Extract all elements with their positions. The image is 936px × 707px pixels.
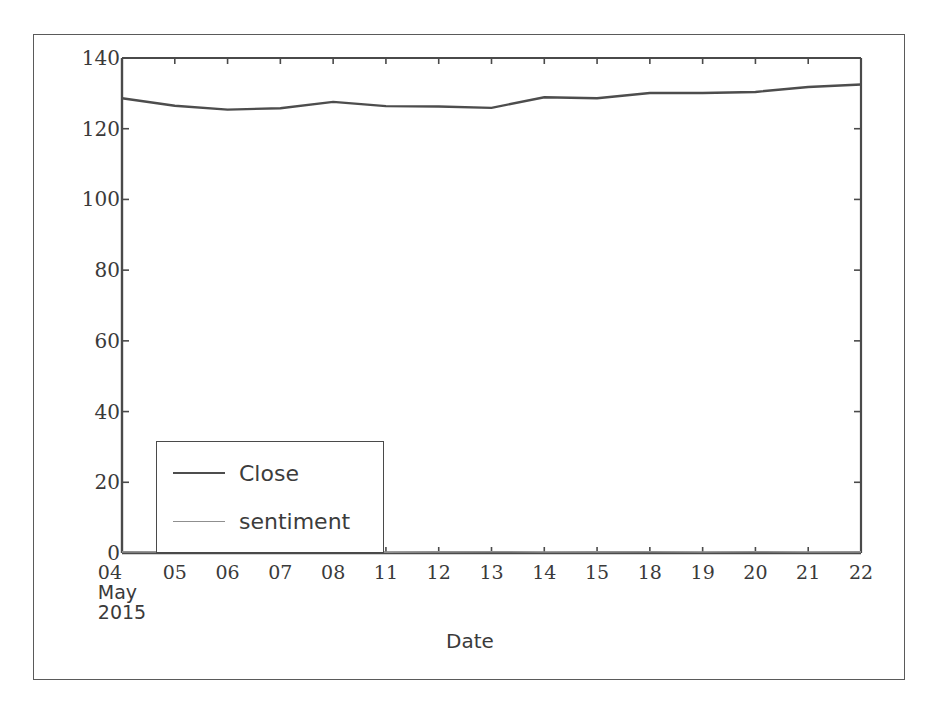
x-axis-title: Date [34, 629, 906, 653]
x-axis-tick-label: 15 [585, 563, 609, 583]
x-axis-tick-label: 08 [321, 563, 345, 583]
legend-entry-sentiment: sentiment [157, 496, 383, 546]
x-axis-tick-label: 06 [215, 563, 239, 583]
x-axis-period-label: 2015 [98, 603, 146, 623]
chart-legend: Close sentiment [156, 441, 384, 553]
x-axis-tick-label: 20 [743, 563, 767, 583]
legend-label-sentiment: sentiment [239, 509, 350, 534]
legend-swatch-sentiment-icon [173, 521, 225, 522]
x-axis-tick-label: 11 [374, 563, 398, 583]
legend-entry-close: Close [157, 448, 383, 498]
x-axis-tick-label: 04May2015 [98, 563, 146, 623]
plot-area: 020406080100120140 04May2015050607081112… [34, 35, 906, 681]
x-axis-tick-labels: 04May20150506070811121314151819202122 [34, 35, 906, 681]
figure-frame: 020406080100120140 04May2015050607081112… [33, 34, 905, 680]
x-axis-tick-label: 21 [796, 563, 820, 583]
x-axis-tick-label: 19 [691, 563, 715, 583]
legend-swatch-close-icon [173, 472, 225, 474]
x-axis-tick-label: 18 [638, 563, 662, 583]
x-axis-tick-label: 05 [163, 563, 187, 583]
legend-label-close: Close [239, 461, 299, 486]
x-axis-tick-label: 22 [849, 563, 873, 583]
x-axis-period-label: May [98, 583, 146, 603]
x-axis-tick-label: 14 [532, 563, 556, 583]
x-axis-tick-label: 13 [479, 563, 503, 583]
x-axis-tick-label: 07 [268, 563, 292, 583]
x-axis-tick-label: 12 [427, 563, 451, 583]
